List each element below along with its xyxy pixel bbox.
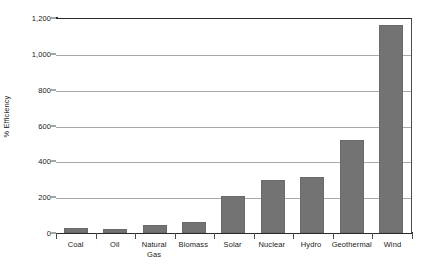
y-tick-mark bbox=[51, 89, 56, 90]
chart-screenshot: % Efficiency 02004006008001,0001,200 Coa… bbox=[0, 0, 426, 273]
y-tick-label: 400 bbox=[17, 157, 51, 166]
bar-slot bbox=[214, 19, 253, 233]
x-axis-tick-marks bbox=[56, 233, 412, 239]
x-tick-mark bbox=[96, 233, 97, 239]
x-tick-label-wind: Wind bbox=[373, 240, 412, 270]
bar-slot bbox=[253, 19, 292, 233]
x-tick-mark bbox=[412, 233, 413, 239]
x-tick-label-coal: Coal bbox=[56, 240, 95, 270]
x-tick-label-geothermal: Geothermal bbox=[331, 240, 373, 270]
x-axis-tick-labels: CoalOilNatural GasBiomassSolarNuclearHyd… bbox=[56, 240, 412, 270]
y-axis-tick-labels: 02004006008001,0001,200 bbox=[14, 0, 51, 273]
y-axis-title: % Efficiency bbox=[0, 0, 14, 233]
bar-solar[interactable] bbox=[221, 196, 245, 233]
x-tick-label-oil: Oil bbox=[95, 240, 134, 270]
x-tick-mark bbox=[293, 233, 294, 239]
bar-slot bbox=[372, 19, 411, 233]
x-tick-label-natural-gas: Natural Gas bbox=[134, 240, 173, 270]
bar-slot bbox=[174, 19, 213, 233]
x-tick-label-hydro: Hydro bbox=[291, 240, 330, 270]
x-tick-mark bbox=[333, 233, 334, 239]
bar-slot bbox=[332, 19, 371, 233]
y-tick-mark bbox=[51, 53, 56, 54]
bar-natural-gas[interactable] bbox=[143, 225, 167, 233]
bar-biomass[interactable] bbox=[182, 222, 206, 233]
y-tick-label: 1,000 bbox=[17, 49, 51, 58]
x-tick-mark bbox=[175, 233, 176, 239]
y-tick-mark bbox=[51, 18, 56, 19]
y-axis-title-text: % Efficiency bbox=[3, 96, 12, 138]
x-tick-mark bbox=[214, 233, 215, 239]
y-tick-mark bbox=[51, 233, 56, 234]
y-tick-label: 200 bbox=[17, 193, 51, 202]
y-tick-label: 0 bbox=[17, 229, 51, 238]
bar-series bbox=[56, 19, 411, 233]
y-tick-mark bbox=[51, 125, 56, 126]
x-tick-mark bbox=[254, 233, 255, 239]
y-tick-mark bbox=[51, 197, 56, 198]
y-tick-label: 1,200 bbox=[17, 14, 51, 23]
x-tick-mark bbox=[372, 233, 373, 239]
x-tick-label-nuclear: Nuclear bbox=[252, 240, 291, 270]
x-tick-label-biomass: Biomass bbox=[174, 240, 213, 270]
bar-hydro[interactable] bbox=[300, 177, 324, 233]
bar-slot bbox=[135, 19, 174, 233]
bar-geothermal[interactable] bbox=[340, 140, 364, 233]
y-tick-mark bbox=[51, 161, 56, 162]
x-tick-mark bbox=[56, 233, 57, 239]
bar-slot bbox=[56, 19, 95, 233]
bar-slot bbox=[95, 19, 134, 233]
x-tick-mark bbox=[135, 233, 136, 239]
y-tick-label: 800 bbox=[17, 85, 51, 94]
plot-area bbox=[56, 18, 412, 233]
y-tick-label: 600 bbox=[17, 121, 51, 130]
bar-slot bbox=[293, 19, 332, 233]
bar-nuclear[interactable] bbox=[261, 180, 285, 233]
x-tick-label-solar: Solar bbox=[213, 240, 252, 270]
bar-wind[interactable] bbox=[379, 25, 403, 233]
